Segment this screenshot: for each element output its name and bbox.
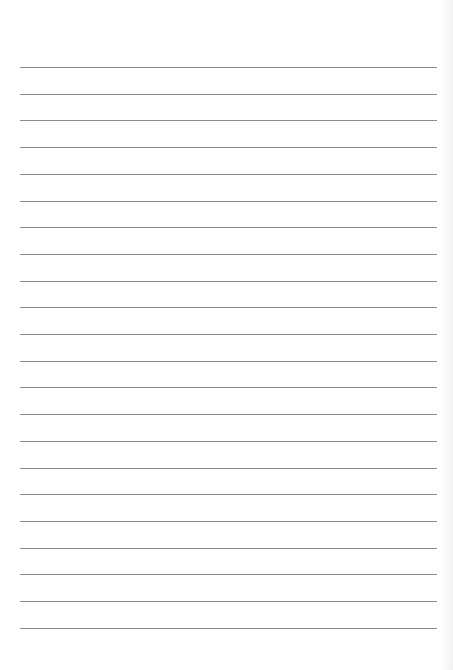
ruled-line	[20, 574, 437, 575]
ruled-line	[20, 94, 437, 95]
ruled-line	[20, 441, 437, 442]
ruled-line	[20, 201, 437, 202]
ruled-line	[20, 494, 437, 495]
ruled-line	[20, 174, 437, 175]
ruled-line	[20, 628, 437, 629]
ruled-line	[20, 387, 437, 388]
ruled-line	[20, 254, 437, 255]
ruled-line	[20, 147, 437, 148]
ruled-line	[20, 307, 437, 308]
ruled-line	[20, 521, 437, 522]
ruled-line	[20, 414, 437, 415]
ruled-line	[20, 361, 437, 362]
ruled-line	[20, 227, 437, 228]
page-edge-shadow	[441, 0, 453, 670]
ruled-line	[20, 468, 437, 469]
ruled-line	[20, 601, 437, 602]
ruled-line	[20, 120, 437, 121]
ruled-line	[20, 334, 437, 335]
ruled-line	[20, 281, 437, 282]
lined-paper-page	[0, 0, 453, 670]
ruled-line	[20, 67, 437, 68]
ruled-line	[20, 548, 437, 549]
